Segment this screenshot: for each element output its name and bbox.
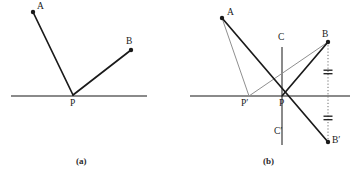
panel-b-label-p: P	[279, 99, 284, 109]
panel-a-caption: (a)	[76, 156, 87, 166]
panel-b-equal-tick-lower	[324, 116, 333, 120]
panel-a-label-a: A	[37, 2, 44, 12]
panel-b-label-pprime: P′	[241, 99, 248, 109]
panel-b-label-cprime: C′	[274, 127, 282, 137]
panel-a-label-p: P	[70, 99, 75, 109]
panel-b-label-a: A	[227, 8, 234, 18]
panel-b-segment-a-bprime	[222, 18, 328, 142]
panel-a-point-a-dot	[31, 10, 35, 14]
figure-root: A B P (a) A B B′ P P′ C C′ (b)	[0, 0, 354, 176]
panel-b-point-a-dot	[220, 16, 224, 20]
panel-a-segment-a-p	[33, 12, 73, 95]
panel-b-segment-a-pprime	[222, 18, 249, 96]
panel-a-group	[11, 10, 147, 96]
panel-a-point-b-dot	[129, 48, 133, 52]
panel-b-label-c: C	[278, 33, 284, 43]
geometry-figure-svg	[0, 0, 354, 176]
panel-b-point-bprime-dot	[326, 140, 330, 144]
panel-a-label-b: B	[126, 37, 132, 47]
panel-b-label-bprime: B′	[332, 136, 340, 146]
panel-a-segment-p-b	[73, 50, 131, 95]
panel-b-caption: (b)	[263, 156, 274, 166]
panel-b-label-b: B	[322, 30, 328, 40]
panel-b-point-b-dot	[326, 40, 330, 44]
